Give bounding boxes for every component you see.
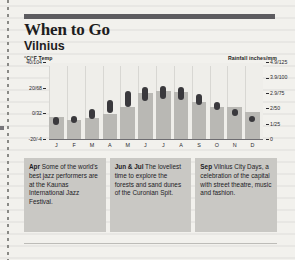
rainfall-tick-label: 1/25 <box>265 122 280 127</box>
month-label: J <box>156 142 170 148</box>
rainfall-bar <box>103 114 118 140</box>
rainfall-tick-label: 2.9/75 <box>265 91 284 96</box>
tip-box-sep: Sep Vilnius City Days, a celebration of … <box>195 158 277 232</box>
month-column <box>245 63 260 140</box>
temperature-range-bar <box>142 87 148 101</box>
month-column <box>156 63 171 140</box>
tip-box-jun-jul: Jun & Jul The loveliest time to explore … <box>110 158 192 232</box>
temperature-range-bar <box>53 117 59 125</box>
page-subtitle: Vilnius <box>24 39 65 53</box>
tip-month-apr: Apr <box>29 163 40 170</box>
tip-month-jun-jul: Jun & Jul <box>115 163 144 170</box>
month-label: A <box>103 142 117 148</box>
month-label: J <box>49 142 63 148</box>
rainfall-tick-label: 4.9/125 <box>265 60 287 65</box>
page-title: When to Go <box>24 20 110 40</box>
month-column <box>192 63 207 140</box>
month-label: M <box>121 142 135 148</box>
temperature-range-bar <box>125 91 131 106</box>
month-column <box>227 63 242 140</box>
temperature-range-bar <box>196 94 202 106</box>
month-column <box>103 63 118 140</box>
rainfall-bar <box>85 118 100 140</box>
rainfall-bar <box>120 107 135 140</box>
month-column <box>120 63 135 140</box>
rainfall-bar <box>210 107 225 140</box>
when-to-go-panel: When to Go Vilnius °C/°F Temp Rainfall i… <box>18 0 295 260</box>
tip-month-sep: Sep <box>200 163 212 170</box>
month-column <box>210 63 225 140</box>
rainfall-tick-label: 0 <box>265 137 273 142</box>
temperature-range-bar <box>107 100 113 113</box>
footer-rule <box>24 243 277 244</box>
month-column <box>174 63 189 140</box>
perforation-margin <box>7 0 9 260</box>
month-label: S <box>192 142 206 148</box>
temp-tick-label: 40/104 <box>26 60 47 65</box>
chart-baseline <box>49 139 263 140</box>
temperature-range-bar <box>214 102 220 111</box>
climate-chart: 40/10420/680/32-20/-4 4.9/1253.9/1002.9/… <box>49 63 263 140</box>
month-label: O <box>210 142 224 148</box>
month-label: D <box>245 142 259 148</box>
rainfall-tick-label: 2/50 <box>265 106 280 111</box>
month-label: F <box>67 142 81 148</box>
rainfall-tick-label: 3.9/100 <box>265 75 287 80</box>
month-column <box>85 63 100 140</box>
month-column <box>49 63 64 140</box>
tip-text-apr: Some of the world's best jazz performers… <box>29 163 98 205</box>
temperature-range-bar <box>178 87 184 100</box>
rainfall-bar <box>192 102 207 140</box>
month-label: N <box>228 142 242 148</box>
temp-tick-label: 0/32 <box>32 111 47 116</box>
month-column <box>138 63 153 140</box>
temperature-range-bar <box>160 86 166 99</box>
rainfall-axis-label: Rainfall <box>228 55 248 61</box>
month-column <box>67 63 82 140</box>
month-label: J <box>138 142 152 148</box>
month-label: M <box>85 142 99 148</box>
month-label: A <box>174 142 188 148</box>
temp-tick-label: 20/68 <box>29 86 47 91</box>
temperature-range-bar <box>71 116 77 124</box>
temp-tick-label: -20/-4 <box>28 137 47 142</box>
seasonal-tips: Apr Some of the world's best jazz perfor… <box>24 158 277 232</box>
header-rule <box>24 14 275 19</box>
margin-tick-mark <box>0 126 4 130</box>
temperature-range-bar <box>89 109 95 119</box>
tip-box-apr: Apr Some of the world's best jazz perfor… <box>24 158 106 232</box>
